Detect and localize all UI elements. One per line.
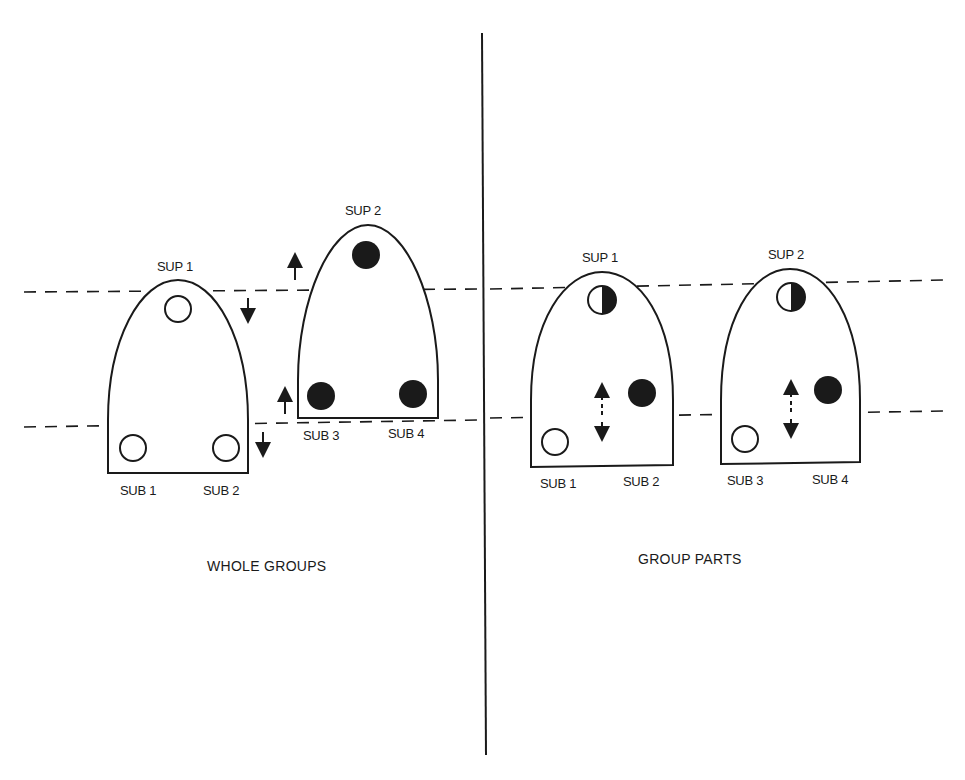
shift-arrows-left [248,260,295,450]
label-sub2-left: SUB 2 [203,483,239,498]
group-sup2-parts [721,269,860,464]
diagram-canvas: SUP 1 SUP 2 SUB 1 SUB 2 SUB 3 SUB 4 SUP … [0,0,965,780]
sub3-marker-open [732,426,758,452]
caption-group-parts: GROUP PARTS [638,551,742,567]
label-sub1-right: SUB 1 [540,476,576,491]
sup1-marker-open [165,296,191,322]
label-sub2-right: SUB 2 [623,474,659,489]
sub1-marker-open [542,429,568,455]
label-sup1-left: SUP 1 [157,259,193,274]
label-sub4-right: SUB 4 [812,472,848,487]
label-sup2-right: SUP 2 [768,247,804,262]
group-sup2-whole [298,225,438,418]
label-sup2-left: SUP 2 [345,203,381,218]
sub1-marker-open [120,435,146,461]
label-sup1-right: SUP 1 [582,250,618,265]
label-sub4-left: SUB 4 [388,426,424,441]
group-sup1-parts [531,272,673,467]
sub4-marker-filled [399,380,427,408]
panel-divider [482,33,486,755]
sub3-marker-filled [307,382,335,410]
label-sub3-left: SUB 3 [303,428,339,443]
group-sup1-whole [108,280,248,473]
sub4-marker-filled [814,376,842,404]
label-sub3-right: SUB 3 [727,473,763,488]
sup2-marker-filled [352,241,380,269]
label-sub1-left: SUB 1 [120,483,156,498]
sub2-marker-open [213,435,239,461]
caption-whole-groups: WHOLE GROUPS [207,558,327,574]
sub2-marker-filled [628,379,656,407]
